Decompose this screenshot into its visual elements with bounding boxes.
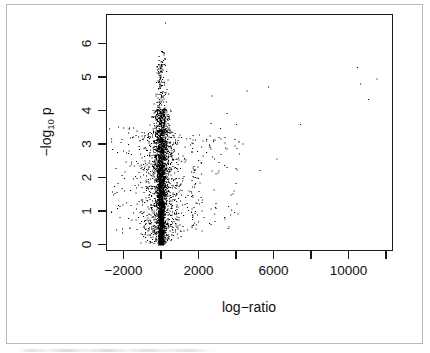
y-tick-label: 2 (79, 174, 94, 182)
x-tick-label: −2000 (105, 263, 143, 278)
y-axis-ticks (98, 44, 107, 245)
scatter-points (109, 23, 378, 246)
x-tick-label: 10000 (330, 263, 368, 278)
scatter-point-cloud (109, 23, 378, 246)
y-tick-label: 1 (79, 207, 94, 215)
x-axis-tick-labels: −2000 2000 6000 10000 (105, 263, 368, 278)
x-tick-label: 2000 (183, 263, 213, 278)
y-axis-title-main: −log (38, 130, 54, 157)
y-tick-label: 5 (79, 73, 94, 81)
svg-text:−log10 p: −log10 p (38, 107, 56, 156)
y-tick-label: 6 (79, 40, 94, 48)
y-axis-title-tail: p (38, 107, 54, 115)
y-axis-title-subscript: 10 (45, 119, 56, 130)
y-axis-tick-labels: 0 1 2 3 4 5 6 (79, 40, 94, 249)
plot-canvas: −2000 2000 6000 10000 0 1 2 3 4 5 6 (0, 0, 430, 353)
x-axis-title: log−ratio (222, 299, 276, 315)
x-tick-label: 6000 (258, 263, 288, 278)
y-tick-label: 3 (79, 140, 94, 148)
volcano-plot-figure: −2000 2000 6000 10000 0 1 2 3 4 5 6 (0, 0, 430, 353)
x-axis-ticks (124, 251, 387, 259)
y-axis-title: −log10 p (38, 107, 56, 156)
y-tick-label: 4 (79, 106, 94, 114)
y-tick-label: 0 (79, 241, 94, 249)
